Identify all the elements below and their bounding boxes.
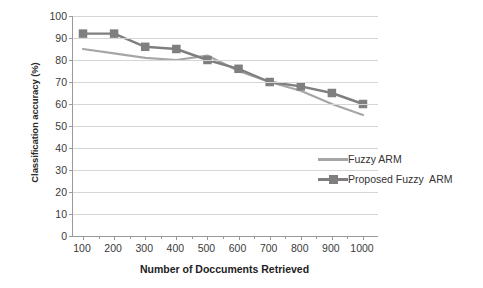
y-tick-mark [69,82,73,83]
x-tick-mark-minor [161,236,162,239]
x-tick-mark [176,236,177,240]
legend-key-line-icon [318,151,348,167]
x-tick-mark [83,236,84,240]
x-tick-label: 1000 [350,242,373,254]
y-tick-mark [69,236,73,237]
x-tick-mark-minor [316,236,317,239]
y-tick-mark [69,170,73,171]
x-tick-mark-minor [192,236,193,239]
x-tick-mark [301,236,302,240]
x-axis-tick-labels: 1002003004005006007008009001000 [72,242,377,258]
x-tick-mark [145,236,146,240]
x-tick-label: 500 [198,242,216,254]
x-tick-label: 800 [291,242,309,254]
x-tick-mark-minor [347,236,348,239]
x-tick-mark-minor [285,236,286,239]
y-tick-mark [69,16,73,17]
y-axis-tick-labels: 1009080706050403020100 [30,9,67,243]
x-tick-label: 700 [260,242,278,254]
y-tick-mark [69,148,73,149]
gridline [73,16,378,17]
y-tick-mark [69,126,73,127]
chart-figure: Classification accuracy (%) 100908070605… [0,0,483,288]
y-tick-mark [69,104,73,105]
x-tick-label: 100 [73,242,91,254]
series-marker [172,45,181,54]
y-tick-label: 50 [30,121,67,132]
legend-label-fuzzy-arm: Fuzzy ARM [348,153,402,165]
series-marker [234,65,243,74]
x-tick-mark-minor [223,236,224,239]
series-marker [110,29,119,37]
series-marker [328,89,337,98]
gridline [73,126,378,127]
x-tick-mark-minor [254,236,255,239]
y-tick-label: 100 [30,11,67,22]
gridline [73,38,378,39]
x-tick-mark [363,236,364,240]
x-tick-label: 300 [135,242,153,254]
legend-item-fuzzy-arm: Fuzzy ARM [318,149,478,169]
x-tick-mark [239,236,240,240]
y-tick-label: 40 [30,143,67,154]
legend-label-proposed-fuzzy-arm: Proposed Fuzzy ARM [348,173,452,185]
legend-item-proposed-fuzzy-arm: Proposed Fuzzy ARM [318,169,478,189]
plot-area [72,16,378,236]
y-tick-mark [69,192,73,193]
legend-key-line-square-icon [318,171,348,187]
y-tick-label: 70 [30,77,67,88]
gridline [73,214,378,215]
y-tick-label: 10 [30,209,67,220]
x-tick-mark-minor [130,236,131,239]
gridline [73,60,378,61]
gridline [73,104,378,105]
y-tick-label: 20 [30,187,67,198]
x-tick-mark [114,236,115,240]
gridline [73,82,378,83]
y-tick-label: 0 [30,231,67,242]
x-tick-mark [207,236,208,240]
y-tick-mark [69,38,73,39]
x-tick-mark [270,236,271,240]
x-tick-label: 400 [167,242,185,254]
y-tick-label: 90 [30,33,67,44]
chart-legend: Fuzzy ARM Proposed Fuzzy ARM [318,149,478,189]
x-tick-label: 900 [322,242,340,254]
x-tick-mark [332,236,333,240]
series-marker [141,43,150,52]
y-tick-label: 30 [30,165,67,176]
series-marker [297,82,306,91]
gridline [73,192,378,193]
series-marker [79,29,88,37]
x-tick-mark-minor [99,236,100,239]
x-tick-label: 600 [229,242,247,254]
y-tick-label: 60 [30,99,67,110]
y-tick-label: 80 [30,55,67,66]
x-tick-label: 200 [104,242,122,254]
x-axis-title: Number of Doccuments Retrieved [72,263,377,275]
series-line [83,34,363,104]
y-tick-mark [69,60,73,61]
y-tick-mark [69,214,73,215]
